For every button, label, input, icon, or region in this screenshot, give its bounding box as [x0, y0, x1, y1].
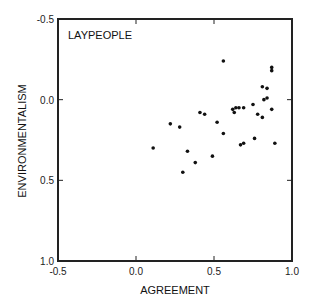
data-point	[198, 111, 202, 115]
data-point	[265, 87, 269, 91]
data-point	[203, 112, 207, 116]
data-point	[262, 98, 266, 102]
data-point	[215, 120, 219, 124]
data-point	[232, 111, 236, 115]
y-axis-ticks: -0.50.00.51.0	[37, 14, 292, 267]
data-point	[178, 125, 182, 129]
data-point	[186, 149, 190, 153]
data-point	[270, 69, 274, 73]
data-point	[242, 106, 246, 110]
data-point	[261, 85, 265, 89]
x-tick-label: 1.0	[285, 266, 299, 277]
scatter-chart: -0.50.00.51.0 -0.50.00.51.0 LAYPEOPLE AG…	[0, 0, 315, 306]
plot-frame	[58, 19, 292, 261]
data-point	[193, 161, 197, 165]
data-point	[256, 112, 260, 116]
data-point	[253, 137, 257, 141]
x-tick-label: -0.5	[49, 266, 67, 277]
data-point	[270, 66, 274, 70]
data-point	[242, 141, 246, 145]
data-point	[239, 143, 243, 147]
data-point	[234, 106, 238, 110]
plot-border	[58, 19, 292, 261]
x-axis-title: AGREEMENT	[140, 284, 210, 296]
x-tick-label: 0.0	[129, 266, 143, 277]
data-point	[222, 59, 226, 63]
data-point	[181, 170, 185, 174]
x-axis-ticks: -0.50.00.51.0	[49, 19, 299, 277]
data-point	[237, 106, 241, 110]
data-point	[273, 141, 277, 145]
data-point	[231, 108, 235, 112]
y-tick-label: -0.5	[37, 14, 55, 25]
panel-label: LAYPEOPLE	[68, 29, 132, 41]
data-point	[151, 146, 155, 150]
x-tick-label: 0.5	[207, 266, 221, 277]
y-tick-label: 0.0	[40, 95, 54, 106]
y-axis-title: ENVIRONMENTALISM	[16, 84, 28, 197]
data-point	[169, 122, 173, 126]
y-tick-label: 1.0	[40, 256, 54, 267]
data-point	[251, 103, 255, 107]
data-points	[151, 59, 276, 174]
data-point	[265, 96, 269, 100]
data-point	[211, 154, 215, 158]
y-tick-label: 0.5	[40, 175, 54, 186]
data-point	[270, 108, 274, 112]
data-point	[261, 116, 265, 120]
data-point	[222, 132, 226, 136]
